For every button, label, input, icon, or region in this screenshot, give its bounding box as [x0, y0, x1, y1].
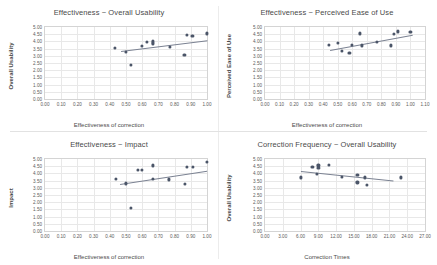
x-axis-tick-label: 0.80 — [170, 102, 179, 107]
plot-area-wrapper: 0.000.501.001.502.002.503.003.504.004.50… — [264, 26, 426, 100]
x-axis-tick-label: 0.60 — [138, 102, 147, 107]
data-point — [124, 182, 127, 185]
data-point — [205, 160, 208, 163]
plot-area-wrapper: 0.000.501.001.502.002.503.003.504.004.50… — [44, 158, 208, 232]
gridline-horizontal — [265, 49, 425, 50]
data-point — [137, 168, 140, 171]
gridline-horizontal — [265, 63, 425, 64]
gridline-horizontal — [265, 188, 425, 189]
y-axis-tick-label: 3.50 — [33, 46, 42, 51]
figure-panel: Effectiveness ~ Overall Usability Overal… — [0, 0, 437, 265]
x-axis-tick-label: 0.50 — [122, 102, 131, 107]
gridline-horizontal — [265, 92, 425, 93]
y-axis-tick-label: 1.00 — [33, 82, 42, 87]
data-point — [141, 44, 144, 47]
data-point — [299, 176, 302, 179]
data-point — [396, 30, 399, 33]
gridline-horizontal — [265, 56, 425, 57]
gridline-vertical — [410, 27, 411, 99]
x-axis-tick-label: 0.90 — [186, 234, 195, 239]
x-axis-tick-label: 0.30 — [304, 102, 313, 107]
gridline-vertical — [336, 159, 337, 231]
y-axis-tick-label: 1.50 — [33, 207, 42, 212]
y-axis-title: Overall Usability — [6, 0, 16, 132]
data-point — [124, 51, 127, 54]
plot-area-wrapper: 0.000.501.001.502.002.503.003.504.004.50… — [264, 158, 426, 232]
x-axis-tick-label: 0.00 — [41, 234, 50, 239]
data-point — [389, 44, 392, 47]
y-axis-tick-label: 3.00 — [33, 185, 42, 190]
data-point — [336, 41, 339, 44]
chart-title: Effectiveness ~ Impact — [0, 140, 218, 149]
gridline-vertical — [77, 159, 78, 231]
x-axis-tick-label: 0.80 — [377, 102, 386, 107]
x-axis-tick-label: 0.80 — [170, 234, 179, 239]
gridline-vertical — [338, 27, 339, 99]
data-point — [129, 64, 132, 67]
y-axis-tick-label: 4.50 — [253, 164, 262, 169]
gridline-horizontal — [265, 195, 425, 196]
y-axis-tick-label: 0.00 — [33, 229, 42, 234]
chart-effectiveness-overall-usability: Effectiveness ~ Overall Usability Overal… — [0, 0, 218, 132]
x-axis-title: Correction Times — [218, 254, 436, 260]
y-axis-title-text: Overall Usability — [226, 174, 232, 221]
gridline-vertical — [175, 27, 176, 99]
gridline-horizontal — [265, 217, 425, 218]
y-axis-tick-label: 1.50 — [253, 75, 262, 80]
y-axis-tick-label: 1.00 — [253, 214, 262, 219]
data-point — [340, 49, 343, 52]
x-axis-tick-label: 1.00 — [406, 102, 415, 107]
gridline-horizontal — [265, 224, 425, 225]
gridline-vertical — [142, 27, 143, 99]
gridline-horizontal — [265, 77, 425, 78]
data-point — [191, 34, 194, 37]
x-axis-tick-label: 9.00 — [314, 234, 323, 239]
gridline-vertical — [110, 27, 111, 99]
y-axis-tick-label: 3.50 — [253, 46, 262, 51]
chart-correction-frequency-overall-usability: Correction Frequency ~ Overall Usability… — [218, 132, 436, 264]
gridline-vertical — [191, 27, 192, 99]
y-axis-tick-label: 4.50 — [33, 32, 42, 37]
data-point — [365, 184, 368, 187]
x-axis-tick-label: 27.00 — [419, 234, 431, 239]
y-axis-tick-label: 4.00 — [253, 171, 262, 176]
x-axis-title: Effectiveness of correction — [218, 122, 436, 128]
x-axis-tick-label: 0.20 — [73, 102, 82, 107]
gridline-vertical — [318, 159, 319, 231]
y-axis-tick-label: 4.50 — [253, 32, 262, 37]
data-point — [340, 175, 343, 178]
y-axis-tick-label: 2.00 — [253, 68, 262, 73]
gridline-vertical — [94, 27, 95, 99]
plot-area-wrapper: 0.000.501.001.502.002.503.003.504.004.50… — [44, 26, 208, 100]
gridline-horizontal — [265, 41, 425, 42]
y-axis-tick-label: 3.00 — [253, 185, 262, 190]
x-axis-tick-label: 1.10 — [421, 102, 430, 107]
x-axis-tick-label: 0.70 — [362, 102, 371, 107]
gridline-vertical — [110, 159, 111, 231]
x-axis-tick-label: 18.00 — [366, 234, 378, 239]
gridline-vertical — [158, 27, 159, 99]
data-point — [375, 41, 378, 44]
gridline-horizontal — [265, 209, 425, 210]
x-axis-tick-label: 0.10 — [57, 102, 66, 107]
x-axis-tick-label: 0.90 — [391, 102, 400, 107]
y-axis-tick-label: 4.00 — [33, 171, 42, 176]
y-axis-tick-label: 0.50 — [33, 221, 42, 226]
gridline-vertical — [354, 159, 355, 231]
data-point — [400, 176, 403, 179]
y-axis-tick-label: 1.00 — [253, 82, 262, 87]
data-point — [141, 168, 144, 171]
gridline-horizontal — [265, 181, 425, 182]
y-axis-tick-label: 3.50 — [253, 178, 262, 183]
gridline-vertical — [94, 159, 95, 231]
y-axis-tick-label: 2.00 — [253, 200, 262, 205]
y-axis-tick-label: 5.00 — [253, 25, 262, 30]
y-axis-tick-label: 0.00 — [33, 97, 42, 102]
data-point — [317, 166, 320, 169]
y-axis-tick-label: 4.50 — [33, 164, 42, 169]
gridline-vertical — [389, 159, 390, 231]
gridline-vertical — [126, 27, 127, 99]
gridline-vertical — [372, 159, 373, 231]
data-point — [360, 44, 363, 47]
x-axis-tick-label: 0.30 — [89, 102, 98, 107]
